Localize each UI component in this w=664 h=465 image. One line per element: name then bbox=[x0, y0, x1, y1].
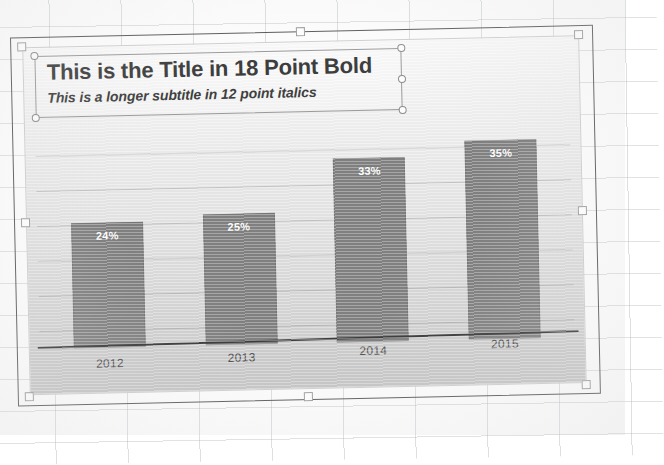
bar-2012[interactable]: 24% bbox=[71, 222, 146, 348]
bar-series: 24% 25% 33% bbox=[39, 118, 571, 348]
photo-tilt-wrapper: This is the Title in 18 Point Bold This … bbox=[0, 0, 630, 442]
textbox-handle-top-right[interactable] bbox=[397, 44, 405, 52]
bar-2014[interactable]: 33% bbox=[333, 157, 409, 342]
bar-2013[interactable]: 25% bbox=[203, 212, 278, 345]
bar-slot: 24% bbox=[39, 127, 175, 349]
x-label-2012: 2012 bbox=[44, 355, 176, 384]
data-label-2015: 35% bbox=[465, 146, 537, 160]
data-label-2014: 33% bbox=[333, 164, 405, 178]
plot-area: 24% 25% 33% bbox=[25, 112, 586, 394]
textbox-handle-bottom-left[interactable] bbox=[32, 114, 40, 122]
chart-title-textbox[interactable]: This is the Title in 18 Point Bold This … bbox=[34, 48, 402, 118]
chart-handle-bottom-right[interactable] bbox=[582, 380, 591, 389]
data-label-2012: 24% bbox=[71, 229, 143, 243]
chart-handle-middle-right[interactable] bbox=[578, 206, 587, 215]
chart-area[interactable]: This is the Title in 18 Point Bold This … bbox=[22, 35, 586, 395]
bar-slot: 35% bbox=[434, 118, 570, 340]
data-label-2013: 25% bbox=[203, 219, 275, 233]
bar-2015[interactable]: 35% bbox=[464, 139, 540, 340]
x-label-2013: 2013 bbox=[176, 349, 308, 378]
x-label-2015: 2015 bbox=[439, 335, 571, 364]
chart-handle-middle-left[interactable] bbox=[21, 218, 30, 227]
chart-handle-top-left[interactable] bbox=[17, 42, 26, 51]
bar-slot: 33% bbox=[302, 121, 438, 343]
bar-slot: 25% bbox=[171, 124, 307, 346]
chart-handle-top-center[interactable] bbox=[296, 27, 305, 36]
textbox-handle-bottom-right[interactable] bbox=[399, 106, 407, 114]
chart-handle-top-right[interactable] bbox=[574, 30, 583, 39]
chart-title: This is the Title in 18 Point Bold bbox=[46, 53, 372, 86]
x-label-2014: 2014 bbox=[307, 342, 439, 371]
chart-handle-bottom-left[interactable] bbox=[25, 392, 34, 401]
textbox-handle-middle-right[interactable] bbox=[398, 75, 406, 83]
chart-handle-bottom-center[interactable] bbox=[304, 392, 313, 401]
chart-subtitle: This is a longer subtitle in 12 point it… bbox=[47, 84, 317, 106]
